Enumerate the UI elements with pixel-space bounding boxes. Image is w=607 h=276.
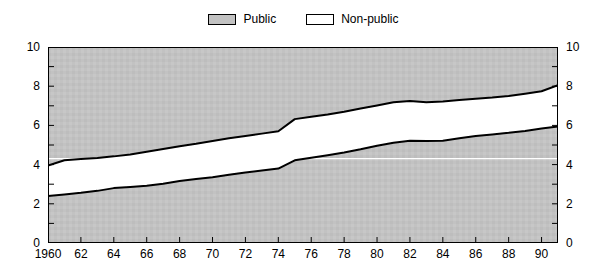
- area-chart-svg: [48, 47, 558, 243]
- y-axis-right-label-10: 10: [566, 41, 592, 53]
- y-axis-right-label-4: 4: [566, 159, 592, 171]
- y-axis-right-label-0: 0: [566, 237, 592, 249]
- y-axis-left-label-4: 4: [14, 159, 40, 171]
- chart-figure: Public Non-public 0246810 0246810 1960: [0, 0, 607, 276]
- legend-swatch-public: [208, 14, 236, 25]
- legend-label-non-public: Non-public: [341, 13, 398, 25]
- y-axis-left-label-2: 2: [14, 198, 40, 210]
- y-axis-right-label-6: 6: [566, 119, 592, 131]
- y-axis-left-label-6: 6: [14, 119, 40, 131]
- y-axis-left-label-8: 8: [14, 80, 40, 92]
- y-axis-right-label-8: 8: [566, 80, 592, 92]
- legend-swatch-non-public: [306, 14, 334, 25]
- legend-label-public: Public: [243, 13, 276, 25]
- chart-legend: Public Non-public: [0, 8, 607, 30]
- legend-entry-non-public: Non-public: [306, 13, 398, 25]
- x-axis-label-1990: 90: [522, 248, 562, 260]
- plot-area: [48, 47, 558, 243]
- y-axis-left-label-10: 10: [14, 41, 40, 53]
- y-axis-right-label-2: 2: [566, 198, 592, 210]
- legend-entry-public: Public: [208, 13, 276, 25]
